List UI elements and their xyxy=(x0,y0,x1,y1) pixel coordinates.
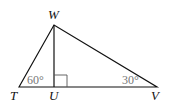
angle-label-t: 60° xyxy=(27,73,44,87)
vertex-label-w: W xyxy=(48,7,60,22)
triangle-diagram: W T U V 60° 30° xyxy=(0,0,170,106)
angle-label-v: 30° xyxy=(122,73,139,87)
vertex-label-u: U xyxy=(49,88,60,103)
right-angle-marker xyxy=(54,75,67,87)
vertex-label-v: V xyxy=(151,88,161,103)
vertex-label-t: T xyxy=(10,88,18,103)
